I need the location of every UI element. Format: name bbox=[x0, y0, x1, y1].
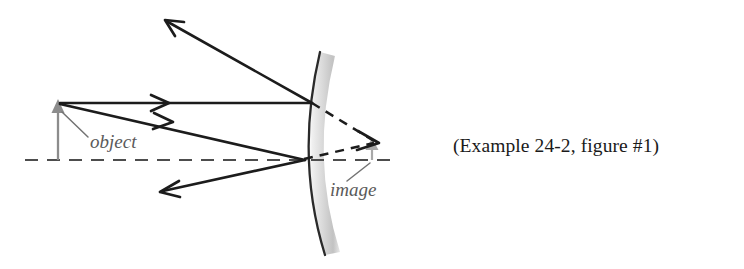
ray-1-parallel bbox=[60, 20, 312, 111]
object-label-leader-line bbox=[62, 112, 88, 137]
convex-mirror-ray-diagram: object image (Example 24-2, figure #1) bbox=[0, 0, 744, 269]
ray-2-incident-arrowhead-icon bbox=[153, 113, 173, 129]
object-arrow bbox=[52, 99, 65, 160]
ray-1-reflected-line bbox=[168, 22, 312, 103]
figure-root: object image (Example 24-2, figure #1) bbox=[0, 0, 744, 269]
object-arrow-head-icon bbox=[52, 99, 65, 113]
object-label: object bbox=[90, 131, 137, 152]
figure-caption: (Example 24-2, figure #1) bbox=[453, 135, 659, 157]
image-label: image bbox=[330, 179, 376, 200]
ray-2-reflected-line bbox=[163, 160, 305, 191]
